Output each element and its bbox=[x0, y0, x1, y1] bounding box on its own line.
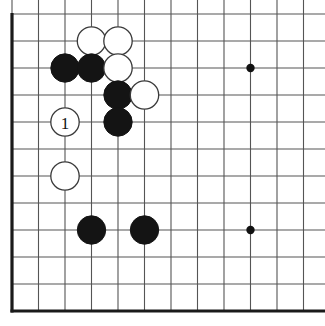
black-stone-d10[interactable] bbox=[77, 54, 105, 82]
hoshi-lower-right bbox=[246, 226, 254, 234]
white-stone-d11[interactable] bbox=[77, 27, 105, 55]
go-board-diagram: 1 bbox=[0, 0, 325, 326]
black-stone-d4[interactable] bbox=[77, 216, 105, 244]
black-stone-c10[interactable] bbox=[51, 54, 79, 82]
move-number-1: 1 bbox=[61, 114, 70, 131]
white-stone-c6[interactable] bbox=[51, 162, 79, 190]
white-stone-f9[interactable] bbox=[130, 81, 158, 109]
hoshi-upper-right bbox=[246, 64, 254, 72]
black-stone-f4[interactable] bbox=[130, 216, 158, 244]
white-stone-e10[interactable] bbox=[104, 54, 132, 82]
black-stone-e8[interactable] bbox=[104, 108, 132, 136]
board-background bbox=[0, 0, 325, 326]
black-stone-e9[interactable] bbox=[104, 81, 132, 109]
white-stone-e11[interactable] bbox=[104, 27, 132, 55]
go-board-grid[interactable] bbox=[0, 0, 325, 326]
